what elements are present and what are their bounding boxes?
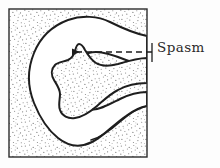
figure-canvas [0,0,220,168]
figure-root: Spasm [0,0,220,168]
spasm-label: Spasm [157,41,205,55]
specimen-block [9,9,147,157]
